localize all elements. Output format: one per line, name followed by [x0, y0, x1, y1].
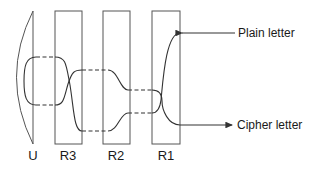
- reflector-u: [17, 11, 34, 144]
- label-r1: R1: [158, 148, 175, 163]
- rotor-r2: [103, 11, 130, 144]
- cipher-letter-label: Cipher letter: [237, 118, 302, 132]
- label-u: U: [28, 148, 37, 163]
- signal-path: [24, 33, 180, 131]
- label-r2: R2: [108, 148, 125, 163]
- rotor-diagram: Plain letter Cipher letter U R3 R2 R1: [0, 0, 310, 170]
- plain-letter-label: Plain letter: [238, 26, 295, 40]
- label-r3: R3: [60, 148, 77, 163]
